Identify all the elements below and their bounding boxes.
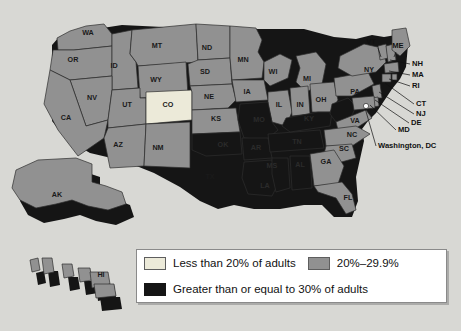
state-label-AR: AR xyxy=(251,143,262,152)
state-label-HI: HI xyxy=(97,270,104,279)
state-NM xyxy=(144,122,190,168)
state-label-NY: NY xyxy=(364,65,374,74)
callout-label-DE: DE xyxy=(411,118,422,127)
state-label-FL: FL xyxy=(344,193,353,202)
callout-label-NH: NH xyxy=(412,59,423,68)
state-label-AL: AL xyxy=(295,160,305,169)
legend-row-bottom: Greater than or equal to 30% of adults xyxy=(137,276,446,302)
state-label-TN: TN xyxy=(292,137,302,146)
state-label-MI: MI xyxy=(303,74,311,83)
state-MT xyxy=(130,24,198,66)
callout-label-WashingtonDC: Washington, DC xyxy=(378,141,437,150)
state-label-MN: MN xyxy=(237,55,248,64)
legend-swatch-low xyxy=(144,257,166,270)
state-label-WA: WA xyxy=(82,28,94,37)
map-figure: WAORIDMTWYNDSDNEMNIAWIMINVUTCOKSCAAZNMTX… xyxy=(0,0,461,331)
callout-label-RI: RI xyxy=(412,81,420,90)
state-AZ xyxy=(104,124,146,168)
state-label-NV: NV xyxy=(87,93,97,102)
state-label-SC: SC xyxy=(339,144,349,153)
state-label-ID: ID xyxy=(110,61,117,70)
callout-label-CT: CT xyxy=(416,99,426,108)
state-label-NM: NM xyxy=(152,143,163,152)
state-label-AZ: AZ xyxy=(113,140,123,149)
state-MD xyxy=(352,96,375,110)
state-label-VA: VA xyxy=(350,116,359,125)
legend-label-high: Greater than or equal to 30% of adults xyxy=(173,283,368,295)
state-label-KY: KY xyxy=(304,114,314,123)
state-label-ND: ND xyxy=(202,43,212,52)
state-label-NE: NE xyxy=(204,92,214,101)
state-label-KS: KS xyxy=(211,114,221,123)
callout-line-DE xyxy=(375,100,409,123)
state-label-TX: TX xyxy=(205,172,214,181)
state-label-UT: UT xyxy=(122,100,132,109)
callout-label-VT: VT xyxy=(366,37,376,46)
callout-label-MD: MD xyxy=(398,125,410,134)
state-label-MS: MS xyxy=(267,161,278,170)
state-label-OK: OK xyxy=(218,140,230,149)
state-label-IA: IA xyxy=(243,87,250,96)
state-label-NC: NC xyxy=(347,130,357,139)
state-CT xyxy=(382,74,391,82)
state-label-CO: CO xyxy=(163,100,174,109)
state-label-IN: IN xyxy=(296,100,303,109)
callout-label-NJ: NJ xyxy=(416,109,426,118)
callout-line-MD xyxy=(370,105,396,130)
legend-item-high: Greater than or equal to 30% of adults xyxy=(144,283,368,296)
map-legend: Less than 20% of adults 20%–29.9% Greate… xyxy=(136,249,447,303)
state-label-PA: PA xyxy=(350,87,359,96)
state-label-OH: OH xyxy=(316,95,327,104)
state-label-WI: WI xyxy=(269,67,278,76)
legend-item-low: Less than 20% of adults xyxy=(144,257,296,270)
state-label-SD: SD xyxy=(200,67,210,76)
state-label-OR: OR xyxy=(68,55,80,64)
legend-row-top: Less than 20% of adults 20%–29.9% xyxy=(137,250,446,276)
state-label-GA: GA xyxy=(321,157,332,166)
state-RI xyxy=(392,74,397,80)
callout-label-MA: MA xyxy=(412,70,424,79)
washington-dc-marker xyxy=(363,103,368,108)
state-label-IL: IL xyxy=(276,100,283,109)
callout-line-NJ xyxy=(379,92,414,114)
state-SD xyxy=(188,58,232,86)
state-label-LA: LA xyxy=(260,181,270,190)
state-label-MT: MT xyxy=(152,41,163,50)
state-label-WY: WY xyxy=(150,75,162,84)
state-MN xyxy=(230,26,264,80)
legend-label-mid: 20%–29.9% xyxy=(337,257,399,269)
legend-swatch-mid xyxy=(308,257,330,270)
state-label-CA: CA xyxy=(61,113,71,122)
legend-swatch-high xyxy=(144,283,166,296)
legend-item-mid: 20%–29.9% xyxy=(308,257,399,270)
legend-label-low: Less than 20% of adults xyxy=(173,257,296,269)
state-label-AK: AK xyxy=(52,190,63,199)
callout-label-ME: ME xyxy=(392,41,403,50)
state-label-MO: MO xyxy=(253,115,265,124)
